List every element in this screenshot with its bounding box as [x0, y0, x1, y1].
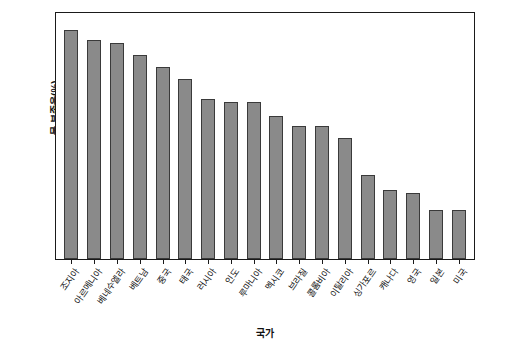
bar-slot	[219, 13, 242, 259]
bar	[133, 55, 147, 259]
bar-slot	[333, 13, 356, 259]
bar-slot	[197, 13, 220, 259]
bar	[429, 210, 443, 259]
bar-slot	[265, 13, 288, 259]
x-axis-title: 국가	[55, 325, 475, 340]
bar-slot	[447, 13, 470, 259]
bar	[247, 102, 261, 259]
bar	[110, 43, 124, 259]
plot-area	[56, 13, 474, 259]
bar-slot	[60, 13, 83, 259]
bar-slot	[174, 13, 197, 259]
x-tick-label-text: 미국	[449, 266, 469, 287]
bar-slot	[242, 13, 265, 259]
bar-slot	[425, 13, 448, 259]
x-tick-label-text: 일본	[427, 266, 447, 287]
x-tick-label-text: 태국	[176, 266, 196, 287]
bar-slot	[288, 13, 311, 259]
bar	[64, 30, 78, 259]
bar-slot	[128, 13, 151, 259]
bar-slot	[379, 13, 402, 259]
bar	[87, 40, 101, 259]
bar-series	[56, 13, 474, 259]
bar-slot	[356, 13, 379, 259]
x-axis: 조지아아르메니아베네수엘라베트남중국태국러시아인도루마니아멕시코브라질콜롬비아이…	[55, 260, 475, 330]
bar	[452, 210, 466, 259]
bar	[269, 116, 283, 259]
bar-chart: 0102030405060708090100 물 부족율(%) 조지아아르메니아…	[0, 0, 510, 349]
bar	[315, 126, 329, 259]
bar-slot	[151, 13, 174, 259]
plot-frame	[55, 12, 475, 260]
bar-slot	[311, 13, 334, 259]
bar	[201, 99, 215, 259]
bar-slot	[83, 13, 106, 259]
bar	[156, 67, 170, 259]
x-tick-label-text: 중국	[153, 266, 173, 287]
bar	[292, 126, 306, 259]
bar	[224, 102, 238, 259]
x-tick-label-text: 인도	[222, 266, 242, 287]
bar-slot	[402, 13, 425, 259]
bar-slot	[106, 13, 129, 259]
bar	[178, 79, 192, 259]
x-tick-label-text: 영국	[404, 266, 424, 287]
